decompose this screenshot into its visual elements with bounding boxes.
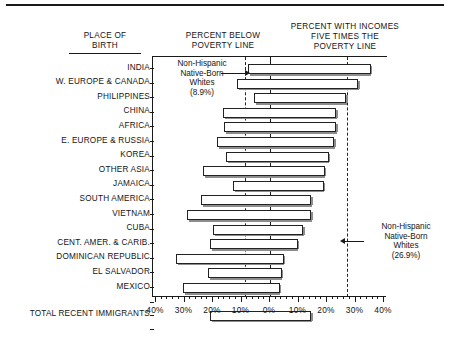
axis-tick-minor xyxy=(206,296,207,299)
bar-africa xyxy=(224,122,336,132)
bar-korea xyxy=(226,152,329,162)
axis-tick-label: 10% xyxy=(226,305,256,315)
category-tick xyxy=(150,329,154,330)
category-label: KOREA xyxy=(120,150,150,159)
axis-tick-minor xyxy=(263,296,264,299)
bar-row xyxy=(153,120,387,135)
category-tick xyxy=(150,302,154,303)
bar-other-asia xyxy=(203,166,325,176)
category-label: SOUTH AMERICA xyxy=(80,194,150,203)
category-label: OTHER ASIA xyxy=(99,165,150,174)
bar-w-europe-canada xyxy=(237,79,358,89)
bar-row xyxy=(153,266,387,281)
axis-tick-label: 30% xyxy=(169,305,199,315)
annotation-right-arrow-icon xyxy=(344,241,364,242)
bar-china xyxy=(223,108,336,118)
axis-tick-label: 20% xyxy=(197,305,227,315)
bar-south-america xyxy=(201,195,311,205)
axis-tick-label: 40% xyxy=(140,305,170,315)
axis-tick-major xyxy=(269,296,270,302)
axis-tick-minor xyxy=(280,296,281,299)
header-percent-five-times-poverty: PERCENT WITH INCOMES FIVE TIMES THE POVE… xyxy=(270,22,420,52)
bar-row xyxy=(153,106,387,121)
axis-tick-major xyxy=(155,296,156,302)
bar-jamaica xyxy=(233,181,324,191)
axis-tick-minor xyxy=(292,296,293,299)
bar-philippines xyxy=(254,93,346,103)
axis-tick-minor xyxy=(172,296,173,299)
axis-tick-minor xyxy=(229,296,230,299)
axis-tick-minor xyxy=(223,296,224,299)
axis-tick-major xyxy=(383,296,384,302)
category-label: DOMINICAN REPUBLIC xyxy=(56,252,150,261)
bar-row xyxy=(153,252,387,267)
category-label: PHILIPPINES xyxy=(97,92,150,101)
axis-tick-minor xyxy=(303,296,304,299)
axis-tick-minor xyxy=(309,296,310,299)
bar-dominican-republic xyxy=(176,254,284,264)
axis-tick-major xyxy=(298,296,299,302)
axis-tick-minor xyxy=(360,296,361,299)
chart-canvas: PLACE OF BIRTH PERCENT BELOW POVERTY LIN… xyxy=(0,0,450,337)
axis-tick-minor xyxy=(366,296,367,299)
axis-tick-major xyxy=(326,296,327,302)
category-axis: INDIAW. EUROPE & CANADAPHILIPPINESCHINAA… xyxy=(0,56,150,296)
category-label: W. EUROPE & CANADA xyxy=(56,77,150,86)
axis-tick-major xyxy=(184,296,185,302)
category-label: TOTAL RECENT IMMIGRANTS xyxy=(30,309,150,318)
bar-row xyxy=(153,135,387,150)
axis-tick-minor xyxy=(372,296,373,299)
category-label: EL SALVADOR xyxy=(92,267,150,276)
axis-tick-major xyxy=(241,296,242,302)
bar-cent-amer-carib xyxy=(210,239,298,249)
axis-tick-minor xyxy=(166,296,167,299)
axis-tick-minor xyxy=(161,296,162,299)
axis-tick-minor xyxy=(252,296,253,299)
axis-tick-major xyxy=(212,296,213,302)
axis-tick-minor xyxy=(286,296,287,299)
category-label: E. EUROPE & RUSSIA xyxy=(61,136,150,145)
bar-mexico xyxy=(183,283,280,293)
category-label: MEXICO xyxy=(117,282,151,291)
axis-tick-minor xyxy=(275,296,276,299)
annotation-left-arrow-icon xyxy=(221,73,245,74)
axis-tick-minor xyxy=(332,296,333,299)
axis-tick-minor xyxy=(258,296,259,299)
annotation-left-whites-poverty: Non-Hispanic Native-Born Whites (8.9%) xyxy=(160,59,244,97)
bar-row xyxy=(153,281,387,296)
category-label: JAMAICA xyxy=(113,179,150,188)
axis-tick-minor xyxy=(235,296,236,299)
category-label: CENT. AMER. & CARIB. xyxy=(57,238,150,247)
axis-tick-minor xyxy=(178,296,179,299)
annotation-right-whites-poverty: Non-Hispanic Native-Born Whites (26.9%) xyxy=(364,222,448,260)
axis-tick-minor xyxy=(337,296,338,299)
bar-row xyxy=(153,223,387,238)
header-place-underline xyxy=(69,53,141,54)
bar-india xyxy=(248,64,371,74)
axis-tick-label: 0% xyxy=(254,305,284,315)
bar-row xyxy=(153,193,387,208)
category-label: CUBA xyxy=(126,223,150,232)
axis-tick-major xyxy=(355,296,356,302)
axis-tick-minor xyxy=(218,296,219,299)
bar-row xyxy=(153,164,387,179)
bar-row xyxy=(153,237,387,252)
axis-tick-minor xyxy=(349,296,350,299)
bar-el-salvador xyxy=(208,268,282,278)
category-label: AFRICA xyxy=(119,121,150,130)
bar-e-europe-russia xyxy=(217,137,334,147)
header-place-of-birth: PLACE OF BIRTH xyxy=(60,31,150,51)
bar-cuba xyxy=(213,225,303,235)
header-percent-below-poverty: PERCENT BELOW POVERTY LINE xyxy=(170,31,276,51)
category-label: CHINA xyxy=(124,106,150,115)
axis-tick-label: 40% xyxy=(368,305,398,315)
axis-tick-minor xyxy=(189,296,190,299)
axis-tick-label: 30% xyxy=(340,305,370,315)
page-top-rule xyxy=(6,4,444,6)
category-label: INDIA xyxy=(127,63,150,72)
bar-row xyxy=(153,208,387,223)
axis-tick-minor xyxy=(195,296,196,299)
bar-row xyxy=(153,179,387,194)
bar-row xyxy=(153,150,387,165)
category-label: VIETNAM xyxy=(112,209,150,218)
